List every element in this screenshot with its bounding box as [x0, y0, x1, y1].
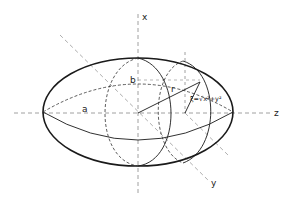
label-radius: r [171, 84, 175, 94]
ellipsoid-diagram: x z y a b r ξ=√x²+y² [0, 0, 287, 201]
central-section-front [138, 58, 171, 166]
label-semi-axis-a: a [82, 104, 88, 114]
label-axis-z: z [274, 108, 279, 118]
label-formula: ξ=√x²+y² [190, 95, 222, 103]
label-semi-axis-b: b [130, 75, 136, 85]
label-axis-x: x [142, 12, 148, 22]
offset-section-front [183, 61, 211, 163]
label-axis-y: y [211, 178, 217, 188]
